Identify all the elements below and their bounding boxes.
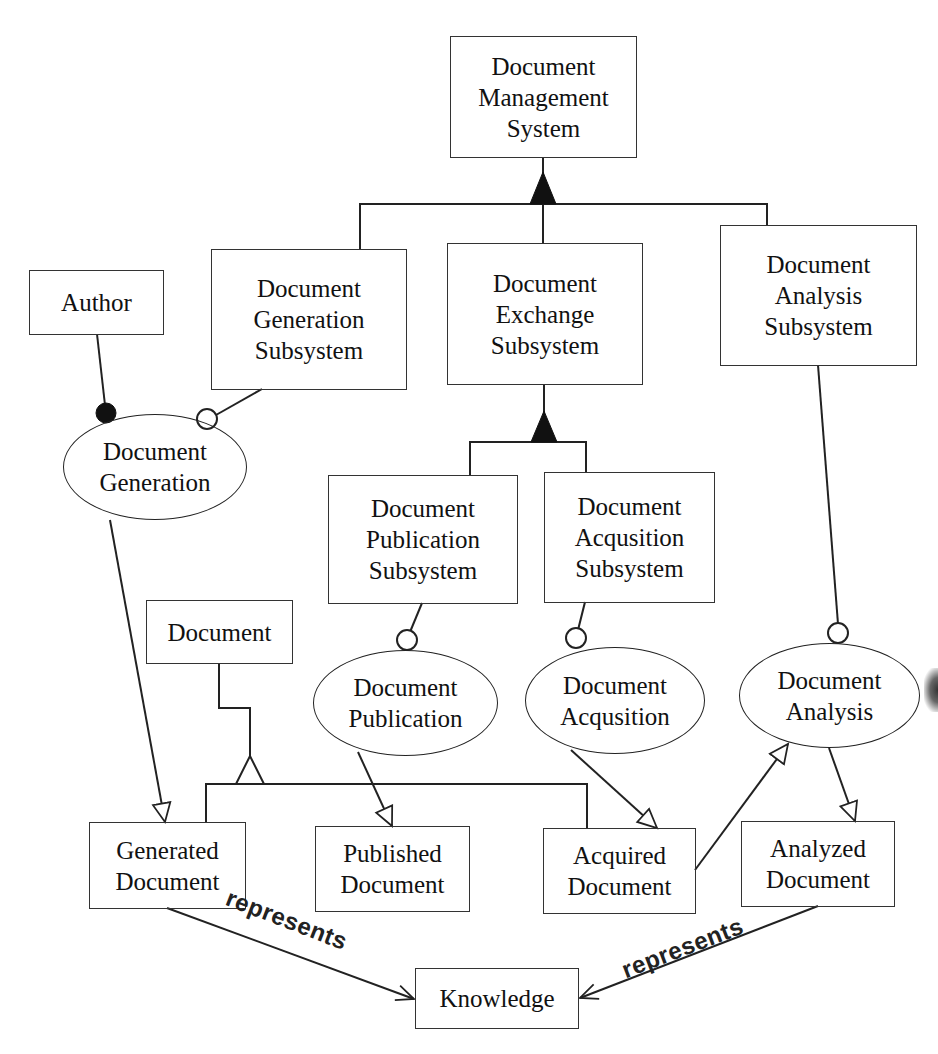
process-label: Publication [349,703,463,734]
process-document-acquisition[interactable]: Document Acqusition [525,647,705,754]
process-label: Document [103,436,207,467]
process-label: Analysis [786,696,874,727]
node-label: Document [491,51,595,82]
node-acquired-document[interactable]: Acquired Document [543,828,696,914]
node-author[interactable]: Author [29,270,164,335]
node-label: Analyzed [770,833,866,864]
node-label: Management [478,82,609,113]
instrument-circle-icon [397,630,417,650]
node-label: Author [61,287,132,318]
node-label: Document [766,864,870,895]
node-label: Generated [116,835,219,866]
node-document-analysis-subsystem[interactable]: Document Analysis Subsystem [720,225,917,366]
node-label: Subsystem [369,555,477,586]
node-label: Document [577,491,681,522]
instrument-circle-icon [828,623,848,643]
node-generated-document[interactable]: Generated Document [89,822,246,909]
node-label: Exchange [496,299,595,330]
node-label: Knowledge [439,983,554,1014]
node-label: Document [340,869,444,900]
node-label: Analysis [775,280,863,311]
node-document-management-system[interactable]: Document Management System [450,36,637,158]
node-document-publication-subsystem[interactable]: Document Publication Subsystem [328,475,518,604]
scan-artifact [924,668,938,712]
node-document-acquisition-subsystem[interactable]: Document Acqusition Subsystem [544,472,715,603]
node-label: Document [167,617,271,648]
process-label: Document [563,670,667,701]
node-label: Document [371,493,475,524]
node-label: Publication [366,524,480,555]
aggregation-triangle-icon [531,411,557,442]
node-label: Subsystem [491,330,599,361]
process-document-analysis[interactable]: Document Analysis [739,643,920,748]
node-analyzed-document[interactable]: Analyzed Document [741,821,895,907]
node-published-document[interactable]: Published Document [315,826,470,912]
node-label: Document [766,249,870,280]
node-label: Acqusition [575,522,685,553]
node-document[interactable]: Document [146,600,293,664]
process-document-publication[interactable]: Document Publication [313,650,498,756]
instrument-circle-icon [566,628,586,648]
process-label: Acqusition [560,701,670,732]
process-label: Document [777,665,881,696]
process-label: Document [353,672,457,703]
node-label: Document [493,268,597,299]
node-knowledge[interactable]: Knowledge [415,968,579,1029]
node-label: Generation [253,304,364,335]
node-document-generation-subsystem[interactable]: Document Generation Subsystem [211,249,407,390]
node-label: Document [115,866,219,897]
node-label: Subsystem [764,311,872,342]
node-label: Document [257,273,361,304]
node-label: Document [567,871,671,902]
node-document-exchange-subsystem[interactable]: Document Exchange Subsystem [447,243,643,385]
node-label: Subsystem [575,553,683,584]
generalization-triangle-icon [236,756,264,784]
aggregation-triangle-icon [530,172,556,204]
node-label: Acquired [573,840,666,871]
process-label: Generation [99,467,210,498]
node-label: System [507,113,581,144]
node-label: Published [343,838,442,869]
process-document-generation[interactable]: Document Generation [63,414,247,520]
node-label: Subsystem [255,335,363,366]
